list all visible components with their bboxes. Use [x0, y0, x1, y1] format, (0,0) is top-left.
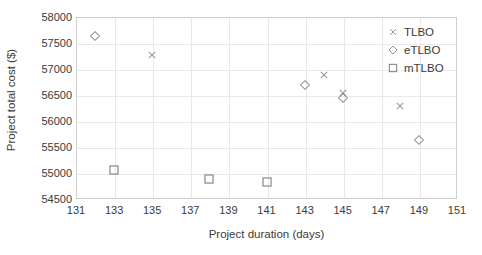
x-axis-tick-labels: 131133135137139141143145147149151	[76, 204, 457, 222]
y-axis-title: Project total cost ($)	[0, 0, 22, 200]
legend-marker-x-cross-icon	[386, 25, 399, 38]
gridline-horizontal	[77, 174, 456, 175]
legend-item-label: mTLBO	[404, 62, 444, 74]
gridline-vertical	[344, 18, 345, 198]
x-axis-tick-label: 131	[56, 204, 96, 216]
gridline-vertical	[229, 18, 230, 198]
gridline-vertical	[191, 18, 192, 198]
x-axis-tick-label: 145	[323, 204, 363, 216]
x-axis-tick-label: 137	[170, 204, 210, 216]
scatter-chart: Project total cost ($) 54500550005550056…	[0, 0, 482, 255]
y-axis-tick-label: 55000	[26, 167, 72, 179]
legend-marker-diamond-open-icon	[386, 43, 399, 56]
x-axis-tick-label: 147	[361, 204, 401, 216]
x-axis-tick-label: 135	[132, 204, 172, 216]
x-axis-tick-label: 141	[247, 204, 287, 216]
legend-item-mtlbo[interactable]: mTLBO	[386, 60, 444, 75]
x-axis-title-text: Project duration (days)	[209, 228, 325, 240]
gridline-vertical	[268, 18, 269, 198]
x-axis-tick-label: 139	[208, 204, 248, 216]
y-axis-tick-label: 56000	[26, 115, 72, 127]
x-axis-tick-label: 133	[94, 204, 134, 216]
y-axis-tick-label: 56500	[26, 89, 72, 101]
x-axis-tick-label: 151	[437, 204, 477, 216]
gridline-vertical	[153, 18, 154, 198]
legend-item-label: eTLBO	[404, 44, 440, 56]
gridline-horizontal	[77, 96, 456, 97]
legend-item-etlbo[interactable]: eTLBO	[386, 42, 444, 57]
gridline-horizontal	[77, 148, 456, 149]
x-axis-tick-label: 149	[399, 204, 439, 216]
x-axis-tick-label: 143	[285, 204, 325, 216]
x-axis-title: Project duration (days)	[76, 228, 457, 240]
gridline-vertical	[115, 18, 116, 198]
y-axis-tick-label: 57000	[26, 63, 72, 75]
gridline-vertical	[306, 18, 307, 198]
y-axis-title-text: Project total cost ($)	[5, 49, 17, 151]
legend-marker-square-open-icon	[386, 61, 399, 74]
chart-legend: TLBOeTLBOmTLBO	[382, 22, 448, 77]
y-axis-tick-label: 58000	[26, 11, 72, 23]
y-axis-tick-labels: 5450055000555005600056500570005750058000	[22, 17, 72, 199]
legend-item-label: TLBO	[404, 26, 434, 38]
gridline-horizontal	[77, 122, 456, 123]
y-axis-tick-label: 57500	[26, 37, 72, 49]
y-axis-tick-label: 55500	[26, 141, 72, 153]
legend-item-tlbo[interactable]: TLBO	[386, 24, 444, 39]
